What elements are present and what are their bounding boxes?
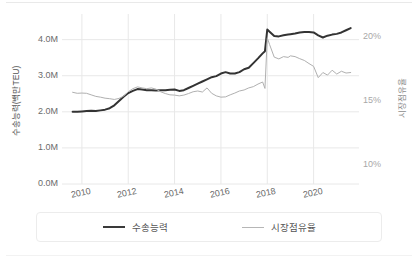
chart-svg: [0, 0, 418, 205]
y-axis-left-tick-label: 2.0M: [22, 106, 58, 116]
gridlines: [62, 14, 359, 184]
legend-item-label: 시장점유율: [271, 220, 316, 234]
y-axis-left-tick-label: 4.0M: [22, 34, 58, 44]
card-bottom-divider: [6, 255, 412, 256]
y-axis-right-tick-label: 15%: [363, 95, 397, 105]
y-axis-left-title: 수송능력(백만TEU): [9, 53, 21, 149]
legend-item-primary[interactable]: 수송능력: [103, 220, 168, 234]
y-axis-right-tick-label: 20%: [363, 31, 397, 41]
series-line-secondary: [73, 38, 351, 100]
y-axis-left-tick-label: 3.0M: [22, 70, 58, 80]
y-axis-right-tick-label: 10%: [363, 159, 397, 169]
y-axis-left-tick-label: 0.0M: [22, 178, 58, 188]
chart-card: 수송능력(백만TEU) 시장점유율 0.0M1.0M2.0M3.0M4.0M 1…: [0, 0, 418, 257]
y-axis-left-tick-label: 1.0M: [22, 142, 58, 152]
legend-line-swatch-icon: [103, 226, 125, 228]
plot-area: 수송능력(백만TEU) 시장점유율 0.0M1.0M2.0M3.0M4.0M 1…: [0, 0, 418, 205]
legend-line-swatch-icon: [242, 227, 264, 228]
legend-item-secondary[interactable]: 시장점유율: [242, 220, 316, 234]
chart-legend: 수송능력시장점유율: [36, 212, 382, 242]
legend-item-label: 수송능력: [132, 220, 168, 234]
series-lines: [73, 28, 351, 112]
